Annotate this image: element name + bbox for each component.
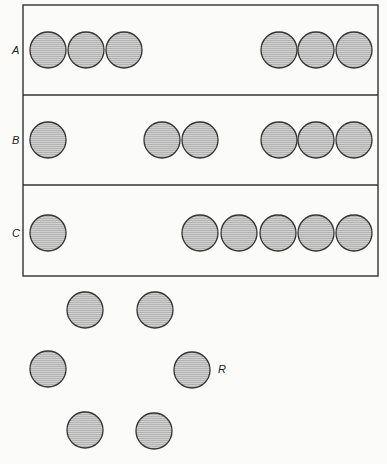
disc	[68, 32, 104, 68]
disc	[260, 215, 296, 251]
disc	[298, 215, 334, 251]
disc	[298, 32, 334, 68]
disc	[221, 215, 257, 251]
disc	[67, 412, 103, 448]
disc	[174, 352, 210, 388]
row-b: B	[12, 122, 372, 158]
ring-label: R	[218, 363, 226, 375]
ring-arrangement: R	[30, 292, 226, 449]
disc	[30, 122, 66, 158]
disc	[137, 292, 173, 328]
row-c: C	[12, 215, 372, 251]
disc	[182, 215, 218, 251]
disc	[336, 32, 372, 68]
disc	[298, 122, 334, 158]
rows: ABC	[11, 32, 372, 251]
disc	[67, 292, 103, 328]
disc	[261, 122, 297, 158]
disc	[30, 351, 66, 387]
disc	[144, 122, 180, 158]
row-label: C	[12, 227, 20, 239]
row-a: A	[11, 32, 372, 68]
disc	[336, 122, 372, 158]
row-label: A	[11, 44, 19, 56]
disc	[336, 215, 372, 251]
diagram-canvas: ABC R	[0, 0, 387, 464]
row-label: B	[12, 134, 19, 146]
disc	[30, 215, 66, 251]
disc	[106, 32, 142, 68]
disc	[136, 413, 172, 449]
disc	[30, 32, 66, 68]
disc	[182, 122, 218, 158]
disc	[261, 32, 297, 68]
